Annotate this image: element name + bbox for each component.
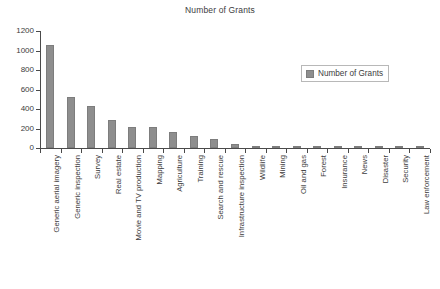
bar [190,136,198,148]
x-axis-tick [368,149,369,153]
x-axis-tick [225,149,226,153]
bar-chart: Number of Grants 020040060080010001200 G… [0,0,440,289]
x-axis-tick [327,149,328,153]
bar [108,120,116,148]
bar [395,146,403,148]
x-axis-tick [61,149,62,153]
chart-title: Number of Grants [0,5,440,15]
bar [128,127,136,148]
chart-legend: Number of Grants [301,65,389,82]
legend-swatch-icon [306,70,314,78]
bar [67,97,75,148]
x-axis-tick-label: Generic aerial imagery [53,155,61,233]
x-axis-tick [266,149,267,153]
bar [87,106,95,148]
x-axis-tick [81,149,82,153]
x-axis-tick-label: Mining [279,155,287,178]
y-axis-tick-label: 1000 [0,47,34,55]
y-axis-tick-label: 400 [0,105,34,113]
bar [416,146,424,148]
x-axis-tick [348,149,349,153]
x-axis-tick-label: Insurance [341,155,349,189]
x-axis-tick-label: Mapping [156,155,164,184]
bar [293,146,301,148]
x-axis-tick [204,149,205,153]
x-axis-tick-label: Real estate [115,155,123,194]
x-axis-tick [307,149,308,153]
bar [313,146,321,148]
x-axis-tick [122,149,123,153]
x-axis-tick [143,149,144,153]
x-axis-tick [102,149,103,153]
bar [354,146,362,148]
y-axis-tick-label: 1200 [0,27,34,35]
x-axis-tick-label: Search and rescue [217,155,225,220]
x-axis-tick-label: Generic inspection [74,155,82,219]
x-axis-tick-label: Survey [94,155,102,179]
x-axis-tick [286,149,287,153]
bar [169,132,177,148]
bar [149,127,157,148]
x-axis-tick-label: News [361,155,369,174]
x-axis-tick-label: Law enforcement [423,155,431,214]
x-axis-tick [245,149,246,153]
bar [210,139,218,148]
x-axis-tick [389,149,390,153]
x-axis-tick-label: Oil and gas [300,155,308,194]
x-axis-tick [40,149,41,153]
y-axis-tick-label: 600 [0,86,34,94]
y-axis-tick-label: 200 [0,125,34,133]
x-axis-tick [409,149,410,153]
bar [375,146,383,148]
x-axis-tick-label: Movie and TV production [135,155,143,240]
x-axis-tick [184,149,185,153]
x-axis-tick-label: Training [197,155,205,183]
bar [334,146,342,148]
bars-group [40,31,430,148]
x-axis-tick-label: Security [402,155,410,183]
bar [272,146,280,148]
x-axis-line [40,148,430,149]
bar [231,144,239,148]
x-axis-tick-label: Wildlife [259,155,267,180]
x-axis-tick-label: Agriculture [176,155,184,192]
x-axis-tick [163,149,164,153]
x-axis-tick-label: Forest [320,155,328,177]
legend-label: Number of Grants [318,69,383,78]
x-axis-tick [430,149,431,153]
y-axis-tick-label: 0 [0,144,34,152]
y-axis-tick-label: 800 [0,66,34,74]
bar [46,45,54,148]
x-axis-tick-label: Infrastructure inspection [238,155,246,237]
x-axis-tick-label: Disaster [382,155,390,183]
bar [252,146,260,148]
